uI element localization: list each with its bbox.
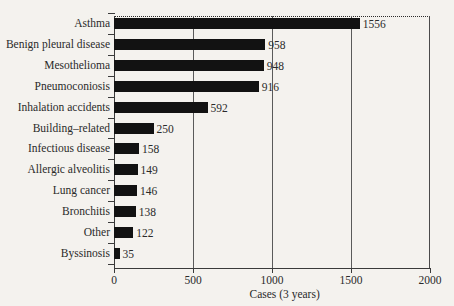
- x-axis-tick: [114, 268, 115, 273]
- category-label: Asthma: [0, 17, 110, 29]
- bar-value-label: 138: [139, 207, 156, 218]
- category-label: Building–related: [0, 122, 110, 134]
- gridline-500: [193, 16, 194, 268]
- category-label: Mesothelioma: [0, 59, 110, 71]
- x-axis-tick-label: 0: [111, 274, 117, 286]
- bar: [114, 60, 264, 71]
- x-axis-tick-label: 1500: [340, 274, 363, 286]
- bar: [114, 18, 360, 29]
- chart-screenshot: AsthmaBenign pleural diseaseMesothelioma…: [0, 0, 454, 306]
- bar-value-label: 958: [268, 40, 285, 51]
- bar: [114, 143, 139, 154]
- bar-value-label: 250: [157, 124, 174, 135]
- bar: [114, 185, 137, 196]
- x-axis-title: Cases (3 years): [249, 288, 319, 300]
- category-label: Pneumoconiosis: [0, 80, 110, 92]
- category-label: Allergic alveolitis: [0, 163, 110, 175]
- category-label: Other: [0, 226, 110, 238]
- category-label: Byssinosis: [0, 247, 110, 259]
- x-axis-tick: [272, 268, 273, 273]
- bar: [114, 39, 265, 50]
- category-labels: AsthmaBenign pleural diseaseMesothelioma…: [0, 0, 110, 306]
- bar-value-label: 146: [140, 186, 157, 197]
- x-axis-tick-label: 2000: [419, 274, 442, 286]
- plot-right-border: [429, 16, 430, 268]
- gridline-1500: [351, 16, 352, 268]
- category-label: Bronchitis: [0, 205, 110, 217]
- bar-value-label: 158: [142, 144, 159, 155]
- bar-value-label: 35: [123, 249, 135, 260]
- bar: [114, 81, 259, 92]
- bar-value-label: 149: [141, 165, 158, 176]
- bar-value-label: 1556: [363, 19, 386, 30]
- bar-value-label: 916: [262, 82, 279, 93]
- category-label: Inhalation accidents: [0, 101, 110, 113]
- bar: [114, 102, 208, 113]
- category-label: Infectious disease: [0, 142, 110, 154]
- category-label: Benign pleural disease: [0, 38, 110, 50]
- x-axis-tick-label: 1000: [261, 274, 284, 286]
- gridline-1000: [272, 16, 273, 268]
- bar-value-label: 122: [136, 228, 153, 239]
- x-axis-tick-label: 500: [184, 274, 201, 286]
- bar-value-label: 592: [211, 103, 228, 114]
- bar-value-label: 948: [267, 61, 284, 72]
- bar: [114, 248, 120, 259]
- x-axis-tick: [430, 268, 431, 273]
- bar: [114, 227, 133, 238]
- x-axis-tick: [193, 268, 194, 273]
- bar: [114, 123, 154, 134]
- bar: [114, 164, 138, 175]
- category-label: Lung cancer: [0, 184, 110, 196]
- x-axis-tick: [351, 268, 352, 273]
- bar: [114, 206, 136, 217]
